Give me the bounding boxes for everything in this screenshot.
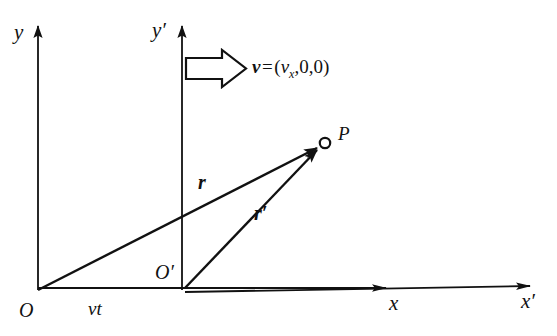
- point-p-label: P: [338, 124, 350, 143]
- x-prime-axis-label: x′: [521, 291, 535, 312]
- velocity-zero-2: 0: [313, 56, 323, 77]
- x-prime-axis: [185, 286, 530, 292]
- velocity-label: v = (vx,0,0): [252, 57, 329, 80]
- diagram-canvas: [0, 0, 557, 336]
- y-prime-axis-label: y′: [152, 20, 166, 41]
- y-axis-label: y: [14, 22, 23, 43]
- vector-r: [38, 148, 317, 290]
- point-p-marker: [320, 138, 330, 148]
- velocity-close-paren: ): [323, 56, 329, 77]
- displacement-vt-label: vt: [88, 299, 102, 318]
- physics-diagram: y y′ x x′ O O′ P r r′ vt v = (vx,0,0): [0, 0, 557, 336]
- x-axis-label: x: [389, 293, 398, 314]
- velocity-component-x: v: [281, 56, 289, 77]
- origin-o-prime-label: O′: [155, 262, 174, 282]
- velocity-block-arrow: [186, 50, 246, 87]
- vector-r-label: r: [198, 172, 206, 192]
- velocity-equals: =: [262, 56, 273, 77]
- origin-o-label: O: [19, 300, 33, 320]
- vector-r-prime-label: r′: [254, 203, 267, 223]
- velocity-zero-1: 0: [299, 56, 309, 77]
